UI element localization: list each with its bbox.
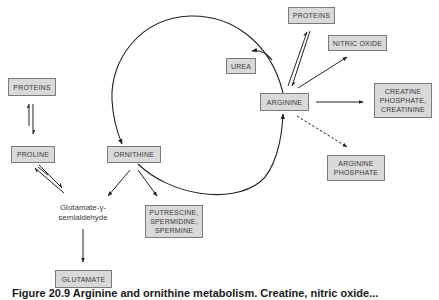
urea-cycle-arcs — [112, 16, 283, 195]
arginine-to-arginine-phosphate-dashed-arrow — [297, 116, 347, 147]
node-nitric-oxide: NITRIC OXIDE — [328, 35, 387, 51]
proline-semialdehyde-reversible — [35, 165, 64, 193]
figure-caption: Figure 20.9 Arginine and ornithine metab… — [12, 286, 378, 300]
node-creatine-phosphate-creatinine: CREATINE PHOSPHATE, CREATININE — [374, 83, 432, 118]
node-arginine: ARGININE — [260, 93, 309, 111]
node-proteins-left: PROTEINS — [8, 78, 56, 96]
node-urea: UREA — [226, 58, 256, 74]
proteins-proline-reversible — [29, 104, 33, 134]
node-proteins-right: PROTEINS — [288, 7, 335, 24]
node-ornithine: ORNITHINE — [107, 146, 161, 163]
ornithine-to-putrescine-arrow — [138, 170, 157, 196]
ornithine-to-semialdehyde-arrow — [108, 170, 130, 196]
node-glutamate-semialdehyde: Glutamate-γ- semialdehyde — [46, 203, 120, 223]
node-proline: PROLINE — [11, 146, 55, 163]
node-arginine-phosphate: ARGININE PHOSPHATE — [327, 155, 385, 181]
arginine-proteins-reversible — [288, 31, 310, 86]
node-putrescine-spermidine-spermine: PUTRESCINE, SPERMIDINE, SPERMINE — [145, 205, 203, 238]
arginine-to-nitric-oxide-arrow — [298, 57, 347, 88]
